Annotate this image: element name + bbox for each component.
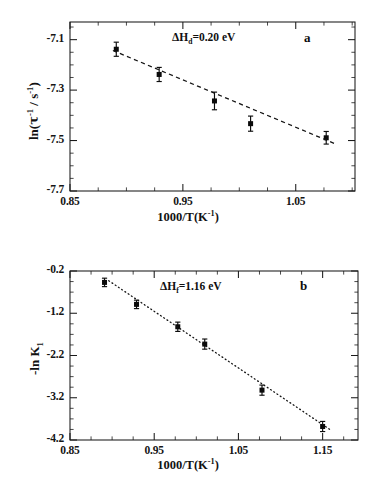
y-tick-label-b-2: -2.2 (30, 348, 64, 360)
y-tick-label-b-3: -3.2 (30, 390, 64, 402)
x-tick-label-a-0: 0.85 (48, 195, 92, 207)
data-point-b-4 (260, 388, 265, 393)
data-point-a-3 (248, 121, 253, 126)
x-tick-label-b-0: 0.85 (48, 444, 92, 456)
y-tick-label-a-1: -7.3 (30, 82, 64, 94)
panel-label-a: a (304, 30, 311, 46)
y-tick-label-b-1: -1.2 (30, 305, 64, 317)
x-tick-label-a-1: 0.95 (161, 195, 205, 207)
x-tick-label-b-3: 1.15 (301, 444, 345, 456)
annotation-enthalpy-b: ΔHf=1.16 eV (160, 280, 222, 292)
x-axis-title-b: 1000/T(K-1) (113, 458, 263, 473)
y-tick-label-b-0: -0.2 (30, 263, 64, 275)
chart-panel-b: -ln K1 1000/T(K-1) ΔHf=1.16 eV b 0.850.9… (0, 250, 377, 498)
fit-line-a (113, 51, 335, 144)
x-axis-title-a: 1000/T(K-1) (113, 210, 263, 225)
fit-line-b (109, 281, 331, 431)
panel-label-b: b (300, 278, 307, 294)
x-tick-label-a-2: 1.05 (274, 195, 318, 207)
data-point-a-2 (212, 98, 217, 103)
chart-panel-a: ln(τ-1 / s-1) 1000/T(K-1) ΔHd=0.20 eV a … (0, 0, 377, 250)
x-tick-label-b-2: 1.05 (216, 444, 260, 456)
y-tick-label-b-4: -4.2 (30, 432, 64, 444)
annotation-enthalpy-a: ΔHd=0.20 eV (172, 31, 235, 43)
data-point-b-0 (102, 280, 107, 285)
y-tick-label-a-0: -7.1 (30, 32, 64, 44)
data-point-b-1 (134, 302, 139, 307)
y-tick-label-a-2: -7.5 (30, 133, 64, 145)
y-tick-label-a-3: -7.7 (30, 183, 64, 195)
figure-container: ln(τ-1 / s-1) 1000/T(K-1) ΔHd=0.20 eV a … (0, 0, 377, 498)
x-tick-label-b-1: 0.95 (132, 444, 176, 456)
data-point-a-1 (157, 72, 162, 77)
